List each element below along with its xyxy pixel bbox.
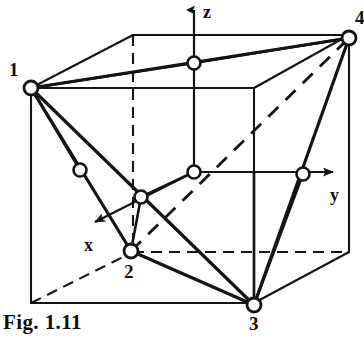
line-front-center-mid-center	[141, 172, 194, 197]
vertex-node-1	[24, 81, 38, 95]
vertex-label-2: 2	[124, 262, 134, 281]
line-v3-right-center	[254, 174, 303, 305]
face-center-left-node	[74, 164, 87, 177]
axis-label-y: y	[330, 186, 339, 204]
face-center-middle-node	[188, 166, 201, 179]
vertex-label-1: 1	[9, 60, 19, 79]
cube-edge-bottom-back-left	[31, 252, 133, 303]
axis-label-z: z	[203, 3, 211, 21]
vertex-label-3: 3	[249, 314, 259, 333]
tetra-edge-2-3	[131, 251, 254, 305]
figure-1-11: 1 2 3 4 z y x Fig. 1.11	[0, 0, 364, 341]
axis-label-x: x	[84, 236, 93, 254]
vertex-label-4: 4	[355, 8, 364, 27]
face-center-nodes	[74, 57, 310, 204]
face-center-front-node	[135, 191, 148, 204]
cube-tetrahedron-diagram	[0, 0, 364, 341]
vertex-node-2	[124, 244, 138, 258]
vertex-node-3	[247, 298, 261, 312]
figure-caption: Fig. 1.11	[3, 312, 82, 333]
face-center-top-node	[188, 57, 201, 70]
face-center-right-node	[297, 168, 310, 181]
cube-edge-bottom-right	[254, 252, 349, 303]
vertex-node-4	[342, 31, 356, 45]
